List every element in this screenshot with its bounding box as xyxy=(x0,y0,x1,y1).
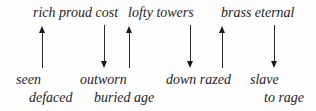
label-outworn: outworn xyxy=(80,73,127,87)
label-seen: seen xyxy=(16,73,41,87)
label-brass-eternal: brass eternal xyxy=(221,6,295,20)
word-arrow-diagram: rich proud cost lofty towers brass etern… xyxy=(0,0,316,111)
label-defaced: defaced xyxy=(29,91,73,105)
label-down-razed: down razed xyxy=(166,73,231,87)
label-to-rage: to rage xyxy=(264,91,304,105)
label-buried-age: buried age xyxy=(94,91,154,105)
label-rich-proud-cost: rich proud cost xyxy=(33,6,118,20)
label-slave: slave xyxy=(250,73,279,87)
label-lofty-towers: lofty towers xyxy=(128,6,194,20)
